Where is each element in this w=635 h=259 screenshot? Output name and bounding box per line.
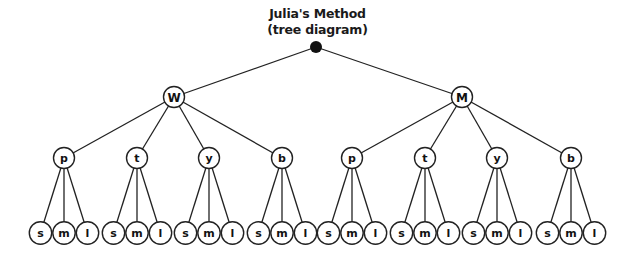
node-label: l	[86, 227, 90, 240]
leaf-m-y-s: s	[462, 222, 484, 244]
leaf-m-t-s: s	[390, 222, 412, 244]
edge-root-to-m	[316, 47, 462, 97]
node-label: l	[519, 227, 523, 240]
node-m-t: t	[415, 148, 436, 169]
leaf-m-b-m: m	[560, 222, 582, 244]
node-label: s	[398, 227, 405, 240]
tree-nodes: WMpsmltsmlysmlbsmlpsmltsmlysmlbsml	[29, 41, 605, 244]
node-label: t	[134, 152, 139, 165]
node-label: s	[37, 227, 44, 240]
node-w-p: p	[54, 148, 75, 169]
node-w: W	[164, 87, 185, 108]
node-label: l	[304, 227, 308, 240]
node-label: s	[110, 227, 117, 240]
edge-m-to-p	[352, 97, 462, 158]
node-label: s	[470, 227, 477, 240]
node-label: l	[159, 227, 163, 240]
leaf-w-p-s: s	[29, 222, 51, 244]
edge-root-to-w	[174, 47, 316, 97]
leaf-w-t-s: s	[102, 222, 124, 244]
edge-w-to-b	[174, 97, 282, 158]
node-label: m	[276, 227, 287, 240]
node-label: y	[205, 152, 212, 165]
leaf-w-y-l: l	[221, 222, 243, 244]
node-w-y: y	[199, 148, 220, 169]
node-label: m	[131, 227, 142, 240]
node-label: l	[593, 227, 597, 240]
edge-m-to-b	[462, 97, 571, 158]
node-label: l	[447, 227, 451, 240]
tree-edges	[41, 47, 595, 233]
node-label: m	[203, 227, 214, 240]
leaf-m-p-s: s	[317, 222, 339, 244]
leaf-m-y-m: m	[486, 222, 508, 244]
leaf-w-b-s: s	[247, 222, 269, 244]
node-w-b: b	[272, 148, 293, 169]
node-label: m	[565, 227, 576, 240]
node-m: M	[452, 87, 473, 108]
node-label: W	[167, 91, 180, 105]
leaf-w-b-l: l	[294, 222, 316, 244]
leaf-m-p-l: l	[364, 222, 386, 244]
leaf-m-b-l: l	[583, 222, 605, 244]
node-label: M	[456, 91, 468, 105]
node-m-y: y	[487, 148, 508, 169]
leaf-w-y-s: s	[174, 222, 196, 244]
leaf-m-b-s: s	[536, 222, 558, 244]
node-label: m	[58, 227, 69, 240]
node-label: b	[567, 152, 575, 165]
node-m-p: p	[342, 148, 363, 169]
node-label: m	[419, 227, 430, 240]
node-label: s	[325, 227, 332, 240]
node-label: m	[346, 227, 357, 240]
node-label: y	[493, 152, 500, 165]
node-label: l	[374, 227, 378, 240]
leaf-m-p-m: m	[341, 222, 363, 244]
node-label: t	[422, 152, 427, 165]
node-label: l	[231, 227, 235, 240]
node-m-b: b	[561, 148, 582, 169]
leaf-m-y-l: l	[509, 222, 531, 244]
edge-w-to-p	[64, 97, 174, 158]
node-label: b	[278, 152, 286, 165]
leaf-w-y-m: m	[198, 222, 220, 244]
leaf-m-t-m: m	[414, 222, 436, 244]
node-label: s	[255, 227, 262, 240]
node-label: p	[348, 152, 356, 165]
root-node	[310, 41, 322, 53]
node-label: m	[491, 227, 502, 240]
leaf-w-p-l: l	[76, 222, 98, 244]
leaf-m-t-l: l	[437, 222, 459, 244]
leaf-w-t-m: m	[126, 222, 148, 244]
tree-diagram: WMpsmltsmlysmlbsmlpsmltsmlysmlbsml	[0, 0, 635, 259]
leaf-w-p-m: m	[53, 222, 75, 244]
node-label: s	[182, 227, 189, 240]
leaf-w-b-m: m	[271, 222, 293, 244]
node-w-t: t	[127, 148, 148, 169]
leaf-w-t-l: l	[149, 222, 171, 244]
node-label: p	[60, 152, 68, 165]
node-label: s	[544, 227, 551, 240]
